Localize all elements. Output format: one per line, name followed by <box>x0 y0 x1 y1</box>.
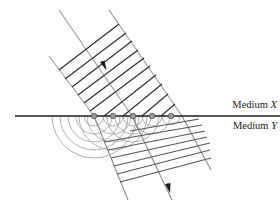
wavefront <box>65 33 126 79</box>
wavefront <box>84 58 144 103</box>
incident-arrowhead <box>101 61 107 70</box>
incident-wavefronts <box>59 24 175 116</box>
source-point <box>91 113 97 119</box>
medium-x-label-text: Medium <box>232 99 270 110</box>
medium-x-variable: X <box>271 99 277 110</box>
source-point <box>130 113 136 119</box>
source-point <box>168 113 174 119</box>
wavefront <box>90 66 150 111</box>
medium-y-label: Medium Y <box>233 121 277 132</box>
wavefront <box>59 24 119 70</box>
wavefront <box>78 50 138 95</box>
medium-y-label-text: Medium <box>233 120 271 131</box>
incident-beam-left-edge <box>49 56 94 116</box>
refracted-ray-center <box>132 116 172 200</box>
medium-y-variable: Y <box>271 120 277 131</box>
wavefront <box>123 84 162 116</box>
medium-x-label: Medium X <box>232 100 277 111</box>
refraction-diagram: Medium X Medium Y <box>0 0 280 214</box>
source-point <box>110 113 116 119</box>
source-point <box>149 113 155 119</box>
